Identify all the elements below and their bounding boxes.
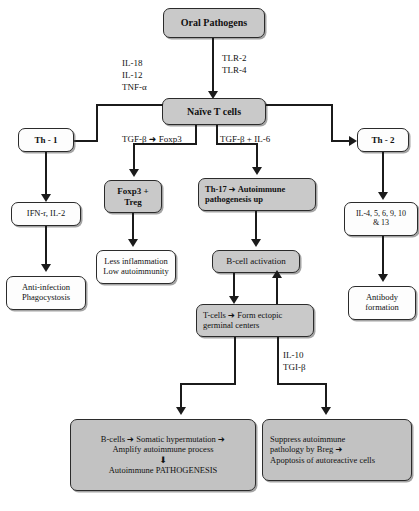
node-antibody-formation: Antibody formation [348, 286, 416, 320]
connector-naive-left-horizontal [96, 104, 163, 106]
node-bottom-right-outcome: Suppress autoimmune pathology by Breg ➜ … [262, 419, 412, 481]
edge-label-foxp3-text: Foxp3 [159, 134, 182, 144]
edge-label-tnf-alpha-text: TNF-α [122, 82, 147, 92]
arrowhead-to-bottom-left-box [176, 407, 186, 415]
flowchart-diagram: Oral Pathogens TLR-2 TLR-4 IL-18 IL-12 T… [0, 0, 419, 511]
node-naive-t-cells-label: Naïve T cells [187, 106, 241, 117]
edge-label-tlr2: TLR-2 [222, 53, 247, 65]
node-th1-label: Th - 1 [34, 135, 57, 145]
node-tcells-form-ectopic-text: Form ectopic [237, 310, 282, 320]
edge-label-tgfb-text: TGF-β [122, 134, 147, 144]
right-arrow-icon: ➜ [335, 444, 342, 454]
connector-naive-right-vertical [331, 104, 333, 142]
node-less-inflammation: Less inflammation Low autoimmunity [96, 250, 176, 284]
node-bottom-left-somatic-text: Somatic hypermutation [136, 434, 216, 444]
right-arrow-icon: ➜ [149, 134, 157, 144]
connector-tcells-bottom-right-stem [277, 337, 279, 385]
connector-ifn-to-antiinfection [45, 226, 47, 268]
node-tcells-line2: germinal centers [203, 321, 259, 331]
node-bcell-activation: B-cell activation [212, 250, 300, 273]
connector-bottom-left-horizontal [180, 383, 236, 385]
edge-label-tlr2-text: TLR-2 [222, 53, 247, 63]
arrowhead-foxp3-to-lessinflam [128, 239, 138, 247]
edge-label-tnf-alpha: TNF-α [122, 82, 147, 94]
connector-tcells-bottom-left-stem [234, 337, 236, 385]
edge-label-tlr4-text: TLR-4 [222, 65, 247, 75]
node-bottom-left-line2: Amplify autoimmune process [112, 445, 213, 455]
arrowhead-tcells-to-bcell [272, 270, 282, 278]
connector-to-th2-horizontal [331, 140, 351, 142]
edge-label-tgfb-il6-text: TGF-β + IL-6 [220, 134, 270, 144]
right-arrow-icon: ➜ [127, 434, 134, 444]
connector-th2-to-il4 [382, 152, 384, 196]
node-bottom-right-breg-text: pathology by Breg [270, 444, 333, 454]
edge-label-il18-text: IL-18 [122, 58, 143, 68]
node-oral-pathogens-label: Oral Pathogens [181, 17, 247, 28]
down-arrow-icon: ⬇ [159, 456, 167, 465]
edge-label-il12-text: IL-12 [122, 70, 143, 80]
edge-label-tgfb-foxp3: TGF-β ➜ Foxp3 [122, 134, 182, 146]
edge-label-il18: IL-18 [122, 58, 143, 70]
right-arrow-icon: ➜ [218, 434, 225, 444]
node-anti-infection: Anti-infection Phagocystosis [6, 276, 86, 310]
edge-label-tgib: TGI-β [283, 362, 306, 374]
node-bottom-left-bcells-text: B-cells [101, 434, 125, 444]
node-less-inflammation-line2: Low autoimmunity [103, 267, 168, 277]
node-bottom-left-line3: Autoimmune PATHOGENESIS [109, 466, 218, 476]
connector-naive-left-vertical [96, 104, 98, 142]
arrowhead-th17-to-bcell [251, 239, 261, 247]
edge-label-tgib-text: TGI-β [283, 362, 306, 372]
edge-label-il10-text: IL-10 [283, 350, 304, 360]
connector-naive-stem-th17 [216, 125, 218, 145]
connector-naive-right-horizontal [266, 104, 333, 106]
arrowhead-il4-to-antibody [378, 274, 388, 282]
node-foxp3-treg: Foxp3 + Treg [104, 180, 162, 213]
node-bottom-left-line1: B-cells ➜ Somatic hypermutation ➜ [101, 435, 225, 445]
node-naive-t-cells: Naïve T cells [162, 98, 266, 125]
node-bottom-left-outcome: B-cells ➜ Somatic hypermutation ➜ Amplif… [70, 419, 256, 491]
arrowhead-th1-to-ifn [41, 194, 51, 202]
connector-th1-to-ifn [45, 152, 47, 198]
node-th1: Th - 1 [18, 128, 74, 152]
node-oral-pathogens: Oral Pathogens [163, 8, 265, 38]
node-th17-line2: pathogenesis up [205, 195, 263, 205]
node-ifn-il2-label: IFN-r, IL-2 [27, 209, 65, 219]
edge-label-tgfb-il6: TGF-β + IL-6 [220, 134, 270, 146]
connector-tcells-up [276, 277, 278, 304]
node-th17-autoimmune-text: Autoimmune [238, 184, 286, 194]
connector-bottom-right-horizontal [277, 383, 327, 385]
node-th2: Th - 2 [357, 128, 409, 152]
arrowhead-bcell-to-tcells [229, 296, 239, 304]
node-th17-th17-text: Th-17 [205, 184, 227, 194]
node-bottom-right-line3: Apoptosis of autoreactive cells [270, 456, 375, 466]
node-il4-series-line2: & 13 [373, 219, 389, 228]
node-tcells-germinal-centers: T-cells ➜ Form ectopic germinal centers [196, 304, 314, 337]
node-foxp3-treg-line1: Foxp3 + [117, 186, 148, 196]
arrowhead-to-bottom-right-box [321, 407, 331, 415]
node-bottom-right-line2: pathology by Breg ➜ [270, 445, 343, 455]
edge-label-il10: IL-10 [283, 350, 304, 362]
edge-label-il12: IL-12 [122, 70, 143, 82]
edge-label-tlr4: TLR-4 [222, 65, 247, 77]
node-th2-label: Th - 2 [371, 135, 394, 145]
arrowhead-ifn-to-antiinfection [41, 264, 51, 272]
node-antibody-formation-line2: formation [365, 303, 399, 313]
node-ifn-il2: IFN-r, IL-2 [11, 202, 81, 226]
right-arrow-icon: ➜ [229, 184, 236, 194]
node-bottom-right-line1: Suppress autoimmune [270, 435, 345, 445]
connector-naive-stem-foxp3 [195, 125, 197, 145]
node-tcells-tcells-text: T-cells [203, 310, 226, 320]
arrowhead-to-th17 [252, 167, 262, 175]
connector-il4-to-antibody [382, 236, 384, 278]
arrowhead-th2-to-il4 [378, 192, 388, 200]
right-arrow-icon: ➜ [228, 310, 235, 320]
node-anti-infection-line2: Phagocystosis [22, 293, 70, 303]
node-bcell-activation-label: B-cell activation [226, 256, 286, 266]
node-th17-autoimmune: Th-17 ➜ Autoimmune pathogenesis up [198, 178, 316, 211]
node-il4-series: IL-4, 5, 6, 9, 10 & 13 [344, 202, 418, 236]
node-foxp3-treg-line2: Treg [124, 197, 142, 207]
connector-pathogens-to-naive [212, 38, 214, 96]
arrowhead-to-foxp3-treg [129, 169, 139, 177]
arrowhead-to-th2 [349, 136, 357, 146]
